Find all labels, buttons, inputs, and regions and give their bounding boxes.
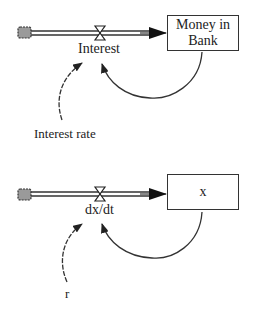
- stock-x[interactable]: x: [167, 174, 239, 210]
- auxiliary-arrow: [62, 224, 82, 282]
- feedback-arrow: [102, 212, 202, 258]
- feedback-arrow: [102, 52, 202, 98]
- auxiliary-arrow: [59, 63, 82, 120]
- source-cloud-icon: [18, 27, 31, 38]
- flow-label-interest: Interest: [78, 41, 120, 57]
- stock-label: x: [200, 184, 207, 200]
- auxiliary-label-interest-rate[interactable]: Interest rate: [34, 126, 96, 142]
- auxiliary-label-r[interactable]: r: [65, 286, 69, 302]
- stock-label-line2: Bank: [188, 33, 218, 49]
- stock-label-line1: Money in: [176, 17, 230, 33]
- source-cloud-icon: [18, 189, 31, 200]
- valve-icon[interactable]: [95, 26, 105, 40]
- stock-money-in-bank[interactable]: Money in Bank: [167, 15, 239, 51]
- flow-label-dxdt: dx/dt: [85, 202, 114, 218]
- valve-icon[interactable]: [95, 187, 105, 201]
